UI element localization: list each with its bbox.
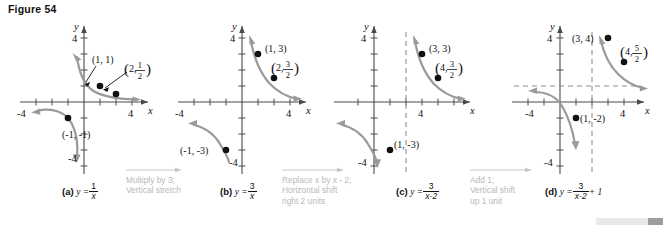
caption-a-fraction: 1x [89,182,98,201]
y-tick-label-neg4: -4 [358,157,367,168]
curve-arrow-left [188,120,197,126]
point-label-2-half: ( 2, 1 2 ) [124,60,151,81]
point-neg1-neg3 [223,147,230,154]
y-axis-arrow [371,26,377,33]
curve-arrow-up-left [73,53,82,61]
svg-text:): ) [643,44,648,61]
panel-d: -4 4 4 -4 y x (3, 4) (1, -2) ( 4, 5 2 ) [500,14,660,184]
curve-arrow-right [639,85,648,91]
transition-a-b-line-2: Vertical stretch [126,185,188,195]
curve-arrow-left [31,109,40,115]
curve-arrow-left [528,88,537,94]
caption-c-label: (c) [396,186,408,197]
point-3-3 [419,51,426,58]
curve-branch-negative [194,125,229,162]
y-tick-label-4: 4 [230,33,236,44]
curve-arrow-up [413,35,419,45]
caption-d-fraction: 3x-2 [573,182,589,201]
caption-c-fraction: 3x-2 [423,182,439,201]
transition-a-b: Multiply by 3; Vertical stretch [126,166,188,196]
caption-c-lhs: y = [410,187,423,197]
transition-c-d: Add 1; Vertical shift up 1 unit [470,166,540,206]
x-axis-label: x [469,105,475,116]
caption-d-label: (d) [545,186,557,197]
svg-text:): ) [146,61,151,78]
curve-arrow-down [571,141,579,150]
point-label-2-half-prefix: 2, [129,63,137,74]
caption-d-addend: + 1 [589,187,603,197]
point-1-1 [97,83,104,90]
point-label-2-three-halves-prefix: 2, [276,62,284,73]
point-label-4-five-halves-den: 2 [635,54,639,64]
x-axis-arrow [141,99,148,105]
panel-d-plot: -4 4 4 -4 y x (3, 4) (1, -2) ( 4, 5 2 ) [500,14,668,184]
caption-d-denominator: x-2 [573,192,589,201]
caption-b: (b) y =3x [220,182,257,201]
x-tick-label-4: 4 [620,108,626,119]
point-label-1-neg2: (1, -2) [580,113,605,125]
point-1-3 [255,51,262,58]
horizontal-scrollbar[interactable] [596,218,663,225]
y-axis-arrow [557,26,563,33]
panel-b: -4 4 4 -4 y x (1, 3) (-1, -3) ( 2, 3 2 ) [166,14,326,184]
caption-a-label: (a) [62,186,74,197]
point-label-1-1: (1, 1) [92,54,114,66]
caption-a-lhs: y = [76,187,89,197]
y-tick-label-4: 4 [72,33,78,44]
y-axis-label: y [549,21,555,32]
point-label-3-4: (3, 4) [572,33,594,45]
point-label-2-half-num: 1 [138,60,142,70]
x-tick-label-neg4: -4 [175,108,184,119]
y-axis-label: y [231,21,237,32]
y-tick-label-neg4: -4 [68,153,77,164]
point-label-4-three-halves-prefix: 4, [440,62,448,73]
x-tick-label-neg4: -4 [17,108,26,119]
point-label-neg1-neg1: (-1, -1) [62,129,90,141]
y-axis-arrow [81,26,87,33]
transition-b-c-line-3: right 2 units [282,196,356,206]
panel-c-plot: 4 4 -4 y x (3, 3) (1, -3) ( 4, 3 2 ) [330,14,490,184]
point-1-neg3 [387,147,394,154]
x-axis-label: x [644,105,650,116]
leader-line-point1 [86,66,96,82]
x-axis-arrow [299,99,306,105]
x-axis-label: x [305,105,311,116]
x-tick-label-neg4: -4 [525,108,534,119]
caption-c-denominator: x-2 [423,192,439,201]
caption-d-lhs: y = [560,187,573,197]
point-label-2-three-halves-num: 3 [286,59,290,69]
point-neg1-neg1 [65,115,72,122]
caption-b-denominator: x [248,192,257,201]
point-label-4-three-halves-den: 2 [450,70,454,80]
transition-c-d-arrow-icon [470,166,532,174]
x-tick-label-4: 4 [286,108,292,119]
x-axis-arrow [637,99,644,105]
caption-c: (c) y =3x-2 [396,182,439,201]
caption-a-denominator: x [89,192,98,201]
transition-b-c-arrow-icon [282,166,344,174]
point-label-4-three-halves-num: 3 [450,59,454,69]
point-label-3-3: (3, 3) [429,43,451,55]
transition-b-c-line-1: Replace x by x - 2; [282,175,356,185]
y-tick-label-4: 4 [547,33,553,44]
x-axis-label: x [147,105,153,116]
figure-root: Figure 54 [0,0,669,232]
y-tick-label-neg4: -4 [544,157,553,168]
point-label-1-3: (1, 3) [265,43,287,55]
point-3-4 [605,35,612,42]
point-label-1-neg3: (1, -3) [394,139,419,151]
curve-branch-negative [534,92,575,144]
transition-b-c-line-2: Horizontal shift [282,185,356,195]
svg-text:): ) [294,60,299,77]
transition-b-c: Replace x by x - 2; Horizontal shift rig… [282,166,356,206]
scrollbar-thumb[interactable] [648,218,663,225]
caption-b-fraction: 3x [248,182,257,201]
point-2-half [113,91,120,98]
transition-c-d-line-3: up 1 unit [470,196,540,206]
y-axis-label: y [73,21,79,32]
x-axis-arrow [463,99,470,105]
x-tick-label-4: 4 [418,108,424,119]
caption-d: (d) y =3x-2+ 1 [545,182,602,201]
panel-c: 4 4 -4 y x (3, 3) (1, -3) ( 4, 3 2 ) [330,14,490,184]
caption-b-lhs: y = [235,187,248,197]
